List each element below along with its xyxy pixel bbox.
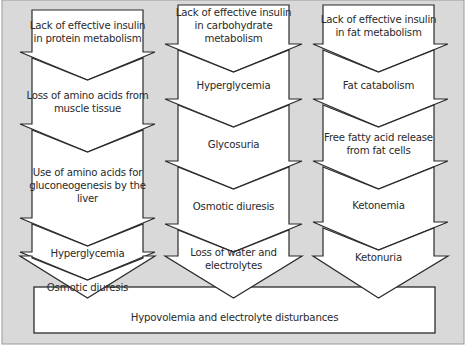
step-label-carbohydrate-4: Osmotic diuresis <box>172 189 295 224</box>
step-label-carbohydrate-1: Lack of effective insulin in carbohydrat… <box>172 7 295 44</box>
step-label-carbohydrate-3: Glycosuria <box>172 127 295 161</box>
step-label-fat-4: Ketonemia <box>317 189 440 222</box>
step-label-protein-3: Use of amino acids for gluconeogenesis b… <box>26 152 149 218</box>
step-label-protein-1: Lack of effective insulin in protein met… <box>26 12 149 52</box>
step-label-protein-2: Loss of amino acids from muscle tissue <box>26 80 149 124</box>
step-label-carbohydrate-5: Loss of water and electrolytes <box>172 252 295 266</box>
step-label-carbohydrate-2: Hyperglycemia <box>172 72 295 99</box>
step-label-protein-5: Osmotic diuresis <box>26 280 149 294</box>
step-label-fat-5: Ketonuria <box>317 250 440 264</box>
step-label-fat-3: Free fatty acid release from fat cells <box>317 127 440 161</box>
outcome-label: Hypovolemia and electrolyte disturbances <box>34 301 435 333</box>
step-label-fat-2: Fat catabolism <box>317 72 440 99</box>
step-label-protein-4: Hyperglycemia <box>26 246 149 260</box>
step-label-fat-1: Lack of effective insulin in fat metabol… <box>317 7 440 44</box>
